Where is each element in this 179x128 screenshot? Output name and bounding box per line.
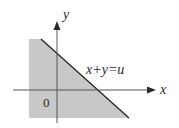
origin-label: 0	[43, 95, 50, 110]
y-axis-label: y	[61, 7, 70, 22]
x-axis-label: x	[159, 82, 167, 97]
y-axis-arrow-icon	[54, 21, 61, 30]
line-equation-label: x+y=u	[85, 62, 124, 77]
x-axis-arrow-icon	[147, 87, 156, 94]
region-diagram: y x 0 x+y=u	[0, 0, 179, 128]
